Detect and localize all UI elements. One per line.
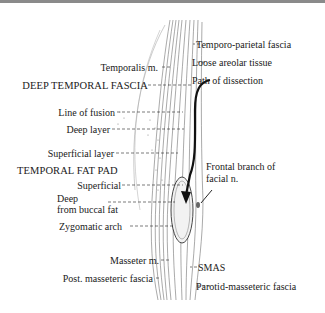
label-parotid-masseteric-fascia: Parotid-masseteric fascia bbox=[196, 281, 296, 292]
label-temporo-parietal-fascia: Temporo-parietal fascia bbox=[196, 39, 291, 50]
label-frontal-branch-line1: Frontal branch of bbox=[206, 161, 275, 172]
label-deep-temporal-fascia: DEEP TEMPORAL FASCIA bbox=[22, 80, 148, 91]
label-deep-fat-pad: Deep bbox=[57, 193, 78, 204]
label-temporal-fat-pad: TEMPORAL FAT PAD bbox=[17, 165, 118, 176]
label-loose-areolar-tissue: Loose areolar tissue bbox=[192, 57, 272, 68]
label-smas: SMAS bbox=[198, 262, 225, 273]
label-temporalis-muscle: Temporalis m. bbox=[100, 62, 158, 73]
label-superficial-layer: Superficial layer bbox=[48, 148, 114, 159]
label-post-masseteric-fascia: Post. masseteric fascia bbox=[63, 273, 153, 284]
label-zygomatic-arch: Zygomatic arch bbox=[59, 221, 122, 232]
label-deep-layer: Deep layer bbox=[66, 124, 110, 135]
label-frontal-branch-line2: facial n. bbox=[206, 173, 238, 184]
label-masseter-muscle: Masseter m. bbox=[110, 255, 159, 266]
label-line-of-fusion: Line of fusion bbox=[58, 107, 115, 118]
label-from-buccal-fat: from buccal fat bbox=[57, 204, 118, 215]
label-superficial-fat-pad: Superficial bbox=[77, 180, 121, 191]
label-path-of-dissection: Path of dissection bbox=[192, 75, 263, 86]
